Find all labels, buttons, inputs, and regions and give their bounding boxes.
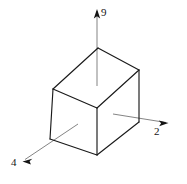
box-axes-diagram xyxy=(0,0,187,184)
axis-label-up: 9 xyxy=(101,7,107,18)
axis-label-right: 2 xyxy=(154,126,160,137)
arrow-down-left-icon xyxy=(23,159,33,165)
figure-canvas: 9 2 4 xyxy=(0,0,187,184)
arrow-right-icon xyxy=(159,120,169,126)
axis-label-left: 4 xyxy=(11,157,17,168)
